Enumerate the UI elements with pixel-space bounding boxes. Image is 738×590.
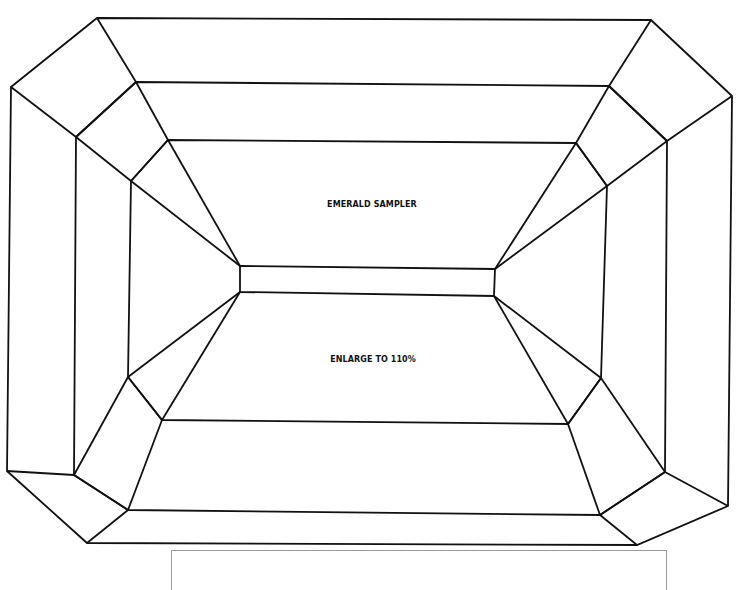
scale-instruction: ENLARGE TO 110% xyxy=(330,355,416,364)
inner-ring xyxy=(128,140,607,424)
caption-box xyxy=(171,550,667,590)
corner-lines-top-left xyxy=(11,18,240,266)
diagram-title: EMERALD SAMPLER xyxy=(327,200,417,209)
outer-outline xyxy=(7,18,732,545)
corner-lines-top-right xyxy=(495,20,732,269)
center-table xyxy=(240,266,495,296)
corner-lines-bottom-left xyxy=(7,292,240,543)
